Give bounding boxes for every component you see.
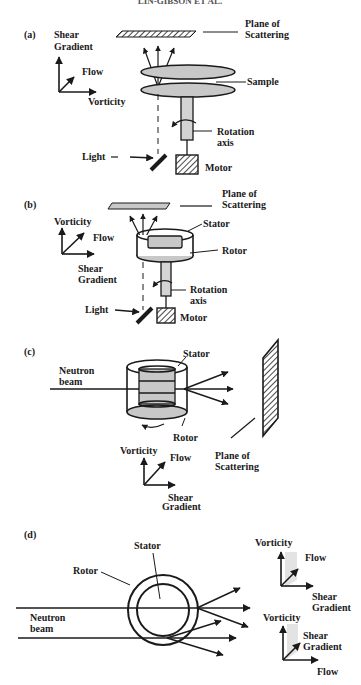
running-header: LIN-GIBSON ET AL. <box>138 0 223 6</box>
beam-label-c-2: beam <box>59 376 83 387</box>
axis-label-flow-d1: Flow <box>305 552 327 563</box>
stator-leader-b <box>188 224 202 231</box>
panel-d-tag: (d) <box>24 529 36 541</box>
plane-of-scattering-c <box>263 340 278 436</box>
beam-label-d-2: beam <box>30 623 54 634</box>
light-arrow-a <box>130 157 153 158</box>
rotor-label-b: Rotor <box>222 245 248 256</box>
light-label-b: Light <box>85 304 109 315</box>
scatter-arrow-d4 <box>167 638 223 655</box>
axis-label-vorticity-a: Vorticity <box>88 96 125 107</box>
stator-label-b: Stator <box>203 218 230 229</box>
axis-label-gradient-d2: Gradient <box>303 641 343 652</box>
stator-b <box>148 236 182 248</box>
stator-label-c: Stator <box>183 348 210 359</box>
rotor-leader-d <box>101 572 130 585</box>
shaft-b <box>161 262 171 296</box>
mirror-a <box>151 155 166 170</box>
rotation-label-b-2: axis <box>190 295 207 306</box>
plane-label-c-2: Scattering <box>215 461 259 472</box>
rotation-arrow-c <box>142 424 164 427</box>
axis-label-shear: Shear <box>54 29 80 40</box>
motor-label-b: Motor <box>180 312 208 323</box>
axis-label-flow-b: Flow <box>93 232 115 243</box>
rotor-leader-b <box>190 250 218 253</box>
axis-label-shear-b: Shear <box>78 263 104 274</box>
figure-canvas: LIN-GIBSON ET AL. (a) Plane of Scatterin… <box>0 0 361 685</box>
rotation-label-b-1: Rotation <box>190 284 228 295</box>
scatter-arrow-d3 <box>167 621 221 638</box>
panel-b: (b) Plane of Scattering Vorticity Flow S… <box>24 188 266 323</box>
scatter-arrow-c1 <box>184 372 228 389</box>
axis-label-flow-c: Flow <box>170 452 192 463</box>
plane-of-scattering-b <box>108 203 170 209</box>
rotor-leader-c <box>182 418 185 426</box>
axis-label-gradient-b: Gradient <box>78 274 118 285</box>
axis-arrow-diag-b <box>62 233 84 254</box>
rotor-ring-d <box>128 575 198 645</box>
panel-c: (c) Neutron beam Stator Rotor Plane of S… <box>24 340 278 512</box>
rotor-label-c: Rotor <box>173 432 199 443</box>
scatter-arrow-c3 <box>184 389 228 404</box>
stator-label-d: Stator <box>134 540 161 551</box>
motor-b <box>157 308 175 323</box>
axis-label-vorticity-d2: Vorticity <box>263 612 300 623</box>
axis-label-gradient-c: Gradient <box>162 501 202 512</box>
motor-label-a: Motor <box>205 162 233 173</box>
plane-label-a-1: Plane of <box>245 18 280 29</box>
panel-a: (a) Plane of Scattering Shear Gradient F… <box>24 18 289 174</box>
axis-label-vorticity-d1: Vorticity <box>255 537 292 548</box>
beam-label-d-1: Neutron <box>30 612 66 623</box>
mirror-b <box>137 308 152 323</box>
panel-a-tag: (a) <box>24 29 36 41</box>
axis-arrow-diag-a <box>59 77 74 92</box>
axis-label-gradient: Gradient <box>54 41 94 52</box>
panel-d: (d) Stator Rotor Neutron beam Vorticity … <box>16 529 352 677</box>
axis-shading-top <box>285 552 297 587</box>
scatter-arrow-d1 <box>197 588 240 608</box>
plane-leader-c <box>231 418 255 438</box>
sample-bottom-disc <box>141 83 235 97</box>
beam-label-c-1: Neutron <box>59 365 95 376</box>
panel-b-tag: (b) <box>24 199 36 211</box>
motor-a <box>176 155 198 174</box>
stator-ring-d <box>137 584 189 636</box>
light-arrow-b <box>115 310 139 312</box>
rotation-label-a-1: Rotation <box>217 126 255 137</box>
plane-label-b-2: Scattering <box>222 199 266 210</box>
rotor-label-d: Rotor <box>73 565 99 576</box>
sample-label: Sample <box>247 76 279 87</box>
shaft-a <box>181 97 193 140</box>
plane-label-c-1: Plane of <box>215 450 250 461</box>
rotation-label-a-2: axis <box>217 137 234 148</box>
panel-c-tag: (c) <box>24 346 35 358</box>
light-label-a: Light <box>82 151 106 162</box>
scatter-arrow-d2 <box>197 608 248 627</box>
sample-top-disc <box>141 65 235 79</box>
plane-label-b-1: Plane of <box>222 188 257 199</box>
axis-label-vorticity-c: Vorticity <box>120 445 157 456</box>
axis-label-flow-d2: Flow <box>317 666 339 677</box>
axis-label-shear-d1: Shear <box>312 591 338 602</box>
axis-arrow-diag-c <box>144 462 165 485</box>
axis-label-vorticity-b: Vorticity <box>54 216 91 227</box>
axis-label-gradient-d1: Gradient <box>312 602 352 613</box>
axis-label-flow-a: Flow <box>82 66 104 77</box>
plane-of-scattering-a <box>116 31 196 37</box>
axis-label-shear-d2: Shear <box>303 630 329 641</box>
stator-c <box>139 369 175 404</box>
plane-label-a-2: Scattering <box>245 29 289 40</box>
